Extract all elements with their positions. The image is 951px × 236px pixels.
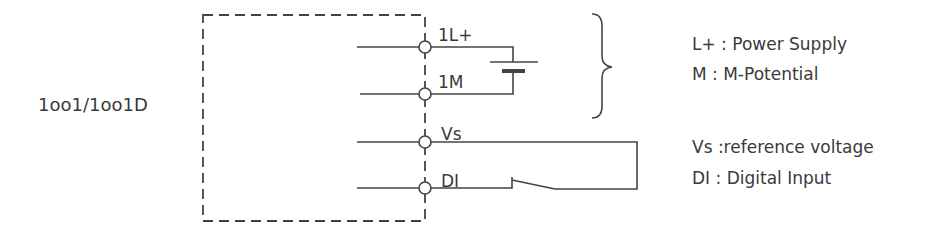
module-boundary <box>203 15 425 221</box>
terminal-1m <box>419 88 431 100</box>
legend-power-supply: L+ : Power Supply <box>692 34 847 54</box>
switch-icon-blade <box>512 180 555 189</box>
module-label: 1oo1/1oo1D <box>38 94 148 115</box>
legend-m-potential: M : M-Potential <box>692 64 818 84</box>
terminal-1l <box>419 41 431 53</box>
terminal-label-1m: 1M <box>438 72 463 92</box>
legend-reference-voltage: Vs :reference voltage <box>692 137 874 157</box>
wire-vs-loop <box>431 142 637 189</box>
terminal-label-vs: Vs <box>441 124 462 144</box>
brace-icon <box>592 14 612 118</box>
wiring-diagram: 1oo1/1oo1D 1L+ 1M Vs DI L+ : Power Suppl… <box>0 0 951 236</box>
terminal-label-di: DI <box>441 171 459 191</box>
legend-digital-input: DI : Digital Input <box>692 168 832 188</box>
terminal-vs <box>419 136 431 148</box>
terminal-label-1l: 1L+ <box>438 25 473 45</box>
wire-1l-battery <box>431 47 513 62</box>
terminal-di <box>419 182 431 194</box>
